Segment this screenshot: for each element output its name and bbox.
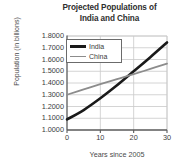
legend-swatch-china	[70, 56, 86, 58]
legend-item-china: China	[70, 52, 107, 62]
chart-figure: Projected Populations of India and China…	[0, 0, 174, 167]
plot-area	[0, 0, 174, 167]
legend-label-india: India	[89, 43, 104, 51]
series-line-china	[67, 64, 167, 95]
legend-item-india: India	[70, 42, 104, 52]
chart-legend: India China	[66, 39, 122, 63]
legend-label-china: China	[89, 53, 107, 61]
legend-swatch-india	[70, 45, 86, 48]
x-axis-label: Years since 2005	[60, 150, 174, 159]
